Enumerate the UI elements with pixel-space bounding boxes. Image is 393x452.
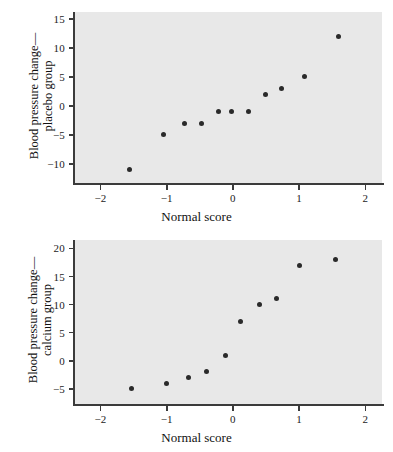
y-tick-mark (69, 163, 74, 165)
x-tick-mark (100, 406, 102, 411)
x-tick-mark (298, 406, 300, 411)
x-tick-label: −1 (161, 414, 173, 425)
x-tick-label: 1 (296, 414, 302, 425)
y-tick-mark (69, 18, 74, 20)
x-axis-calcium (73, 404, 384, 406)
x-tick-mark (166, 406, 168, 411)
y-tick-mark (69, 332, 74, 334)
x-tick-label: −1 (161, 193, 173, 204)
data-point (246, 109, 251, 114)
y-axis-calcium (73, 240, 75, 405)
y-axis-title-calcium: Blood pressure change— calcium group (26, 218, 54, 422)
figure-page: { "page": { "title": "Normal probability… (0, 0, 393, 452)
y-axis-placebo (73, 12, 75, 184)
y-tick-mark (69, 47, 74, 49)
data-point (164, 381, 169, 386)
x-tick-label: 1 (296, 193, 302, 204)
x-tick-mark (365, 406, 367, 411)
x-tick-label: −2 (94, 414, 106, 425)
y-axis-title-placebo: Blood pressure change— placebo group (26, 0, 54, 201)
data-point (297, 263, 302, 268)
y-tick-mark (69, 134, 74, 136)
x-tick-label: −2 (94, 193, 106, 204)
y-tick-mark (69, 105, 74, 107)
x-tick-mark (298, 185, 300, 190)
x-tick-mark (166, 185, 168, 190)
data-point (257, 302, 262, 307)
data-point (263, 92, 268, 97)
y-tick-mark (69, 276, 74, 278)
chart-placebo: −10−5051015 −2−1012 Normal score Blood p… (0, 0, 393, 226)
x-tick-mark (232, 406, 234, 411)
x-tick-label: 2 (363, 193, 369, 204)
y-tick-mark (69, 360, 74, 362)
chart-calcium: −505101520 −2−1012 Normal score Blood pr… (0, 226, 393, 452)
y-tick-mark (69, 304, 74, 306)
x-tick-label: 0 (230, 414, 236, 425)
y-tick-mark (69, 388, 74, 390)
x-axis-title-calcium: Normal score (0, 430, 393, 446)
x-axis-title-placebo: Normal score (0, 209, 393, 225)
y-tick-mark (69, 76, 74, 78)
x-tick-mark (365, 185, 367, 190)
data-point (223, 353, 228, 358)
data-point (182, 121, 187, 126)
data-point (238, 319, 243, 324)
x-tick-label: 2 (363, 414, 369, 425)
x-tick-mark (232, 185, 234, 190)
x-tick-mark (100, 185, 102, 190)
plot-area-calcium (74, 240, 382, 404)
y-tick-mark (69, 248, 74, 250)
x-axis-placebo (73, 183, 384, 185)
x-tick-label: 0 (230, 193, 236, 204)
